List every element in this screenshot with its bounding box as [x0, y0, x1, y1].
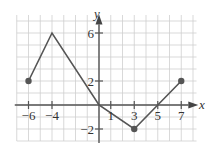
function-graph: −6−4135762−2 x y	[0, 0, 211, 150]
y-tick-label: −2	[80, 122, 94, 137]
closed-point	[25, 78, 31, 84]
x-tick-label: 5	[155, 108, 162, 123]
axes	[15, 15, 199, 143]
y-tick-label: 6	[88, 26, 95, 41]
closed-point	[131, 126, 137, 132]
y-tick-label: 2	[88, 74, 95, 89]
x-tick-label: 3	[131, 108, 138, 123]
closed-point	[178, 78, 184, 84]
x-tick-label: −4	[45, 108, 59, 123]
x-axis-label: x	[198, 97, 205, 112]
y-axis-label: y	[92, 6, 100, 21]
x-tick-label: −6	[22, 108, 36, 123]
x-tick-label: 1	[108, 108, 115, 123]
x-tick-label: 7	[178, 108, 185, 123]
